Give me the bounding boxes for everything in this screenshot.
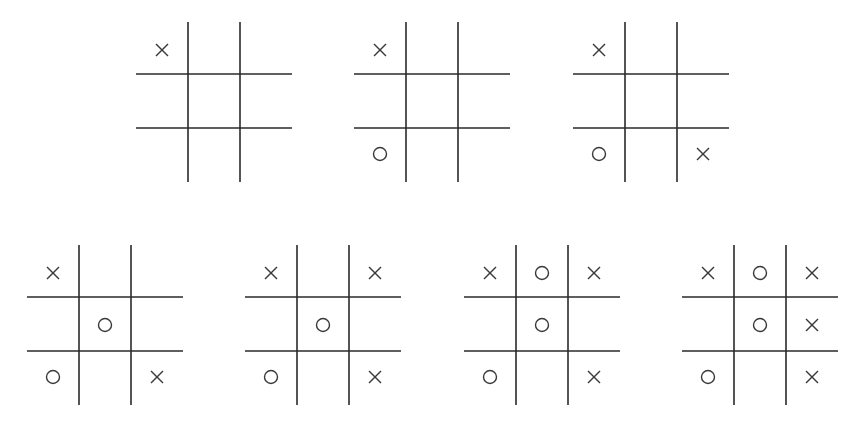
x-mark-icon [151,371,163,383]
o-mark-icon [754,267,767,280]
x-mark-icon [484,267,496,279]
o-mark-icon [374,148,387,161]
x-mark-icon [806,267,818,279]
x-mark-icon [369,267,381,279]
board-3 [573,22,731,182]
x-mark-icon [588,267,600,279]
board-2 [354,22,512,182]
x-mark-icon [806,319,818,331]
board-6 [464,245,622,405]
o-mark-icon [702,371,715,384]
board-grid [682,245,840,405]
o-mark-icon [536,319,549,332]
o-mark-icon [484,371,497,384]
o-mark-icon [536,267,549,280]
board-grid [245,245,403,405]
board-grid [464,245,622,405]
x-mark-icon [374,44,386,56]
board-7 [682,245,840,405]
board-grid [136,22,294,182]
board-grid [354,22,512,182]
board-5 [245,245,403,405]
board-grid [573,22,731,182]
o-mark-icon [593,148,606,161]
o-mark-icon [265,371,278,384]
o-mark-icon [47,371,60,384]
x-mark-icon [593,44,605,56]
o-mark-icon [99,319,112,332]
x-mark-icon [702,267,714,279]
board-1 [136,22,294,182]
x-mark-icon [265,267,277,279]
x-mark-icon [47,267,59,279]
board-grid [27,245,185,405]
o-mark-icon [317,319,330,332]
x-mark-icon [697,148,709,160]
x-mark-icon [806,371,818,383]
x-mark-icon [369,371,381,383]
x-mark-icon [156,44,168,56]
x-mark-icon [588,371,600,383]
o-mark-icon [754,319,767,332]
board-4 [27,245,185,405]
